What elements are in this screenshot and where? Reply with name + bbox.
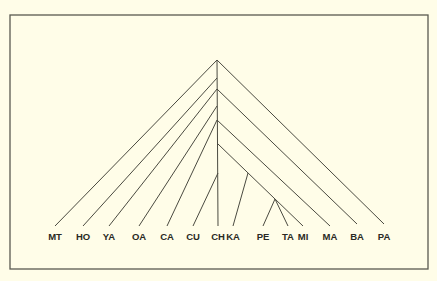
leaf-label-ch: CH <box>211 231 225 242</box>
leaf-label-pa: PA <box>378 231 391 242</box>
tree-branch <box>218 144 303 226</box>
leaf-label-ya: YA <box>103 231 115 242</box>
leaf-label-ho: HO <box>76 231 90 242</box>
tree-branch <box>193 173 218 226</box>
leaf-label-mt: MT <box>48 231 62 242</box>
leaf-label-oa: OA <box>132 231 146 242</box>
tree-branch <box>109 89 217 226</box>
tree-branch <box>217 89 357 224</box>
cladogram-diagram: MTHOYAOACACUCHKAPETAMIMABAPA <box>0 0 437 281</box>
tree-branch <box>275 199 288 226</box>
tree-branch <box>217 60 218 226</box>
tree-branch <box>139 106 217 226</box>
tree-branch <box>167 120 217 226</box>
leaf-labels: MTHOYAOACACUCHKAPETAMIMABAPA <box>48 231 390 242</box>
leaf-label-ma: MA <box>323 231 338 242</box>
tree-branch <box>217 60 384 224</box>
leaf-label-ca: CA <box>160 231 174 242</box>
leaf-label-pe: PE <box>257 231 270 242</box>
leaf-label-ka: KA <box>226 231 240 242</box>
tree-branch <box>233 173 248 226</box>
tree-branch <box>263 199 275 226</box>
tree-branch <box>217 120 330 226</box>
leaf-label-mi: MI <box>298 231 309 242</box>
leaf-label-cu: CU <box>186 231 200 242</box>
tree-branches <box>55 60 384 226</box>
leaf-label-ta: TA <box>282 231 294 242</box>
tree-branch <box>83 78 217 226</box>
leaf-label-ba: BA <box>350 231 364 242</box>
